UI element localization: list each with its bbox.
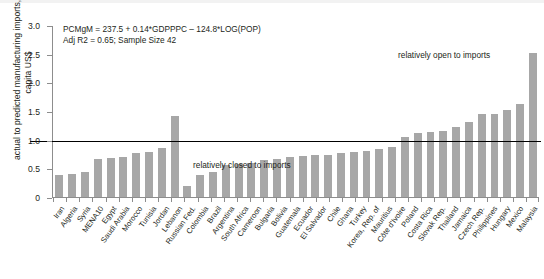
bar-cell	[207, 26, 220, 197]
bar	[158, 148, 166, 197]
bar	[324, 155, 332, 197]
y-axis-tick: 1.0	[47, 141, 52, 142]
y-axis-tick-label: 2.0	[28, 78, 40, 88]
bar-cell	[53, 26, 66, 197]
open-to-imports-annotation: relatively open to imports	[398, 50, 490, 60]
bar-cell	[79, 26, 92, 197]
bar	[222, 165, 230, 197]
bar-cell	[104, 26, 117, 197]
bar-cell	[322, 26, 335, 197]
y-axis-tick-label: 0.5	[28, 164, 40, 174]
x-axis-labels: IranAlgeriaSyriaMENA10EgyptSaudi ArabiaM…	[53, 203, 539, 279]
closed-to-imports-annotation: relatively closed to imports	[193, 160, 291, 170]
bar	[132, 153, 140, 197]
bar	[529, 53, 537, 197]
bar-cell	[91, 26, 104, 197]
bar	[94, 159, 102, 197]
bar-cell	[501, 26, 514, 197]
bar	[119, 157, 127, 197]
bar	[145, 152, 153, 197]
bar-cell	[296, 26, 309, 197]
bar	[363, 151, 371, 197]
bar	[337, 153, 345, 197]
bar-cell	[360, 26, 373, 197]
bar	[401, 137, 409, 197]
bar-cell	[245, 26, 258, 197]
bar	[388, 147, 396, 197]
bar	[452, 127, 460, 197]
bar-cell	[117, 26, 130, 197]
bar-cell	[373, 26, 386, 197]
bar-cell	[335, 26, 348, 197]
y-axis-tick-label: 3.0	[28, 21, 40, 31]
bar	[465, 122, 473, 197]
x-axis-label-cell: Malaysia	[526, 203, 539, 279]
bar	[478, 114, 486, 197]
bar	[311, 155, 319, 197]
bar	[183, 186, 191, 197]
bar-cell	[386, 26, 399, 197]
bar-cell	[526, 26, 539, 197]
bar-cell	[232, 26, 245, 197]
bar-cell	[258, 26, 271, 197]
bar	[491, 114, 499, 197]
y-axis-tick: 2.0	[47, 83, 52, 84]
bar-cell	[194, 26, 207, 197]
page-top-rule	[0, 0, 544, 3]
y-axis-tick: 0.5	[47, 169, 52, 170]
bar-cell	[143, 26, 156, 197]
bar-cell	[271, 26, 284, 197]
bar	[196, 175, 204, 197]
bar-cell	[130, 26, 143, 197]
bar-cell	[219, 26, 232, 197]
y-axis-tick-label: 1.5	[28, 107, 40, 117]
bar-cell	[514, 26, 527, 197]
bar	[171, 116, 179, 197]
y-axis-tick: 3.0	[47, 26, 52, 27]
regression-equation-annotation: PCMgM = 237.5 + 0.14*GDPPPC – 124.8*LOG(…	[63, 24, 261, 46]
bar	[350, 152, 358, 197]
bar	[516, 104, 524, 197]
bar-cell	[309, 26, 322, 197]
bar	[414, 133, 422, 197]
bar-cell	[66, 26, 79, 197]
manufacturing-imports-bar-chart: actual to predicted manufacturing import…	[0, 0, 544, 279]
y-axis-tick: 0	[47, 198, 52, 199]
bar	[81, 172, 89, 197]
bar	[55, 175, 63, 197]
bar	[503, 110, 511, 197]
bar-cell	[168, 26, 181, 197]
y-axis-tick: 2.5	[47, 55, 52, 56]
y-axis-tick-label: 2.5	[28, 50, 40, 60]
y-axis-tick: 1.5	[47, 112, 52, 113]
bar	[299, 156, 307, 197]
reference-line-1	[30, 141, 541, 143]
bar-cell	[347, 26, 360, 197]
y-axis-tick-label: 1.0	[28, 136, 40, 146]
bar-cell	[283, 26, 296, 197]
bar-cell	[181, 26, 194, 197]
bar	[107, 158, 115, 197]
y-axis-tick-label: 0	[35, 193, 40, 203]
bar	[68, 174, 76, 198]
bar	[375, 149, 383, 197]
bar-cell	[155, 26, 168, 197]
bar	[209, 172, 217, 197]
